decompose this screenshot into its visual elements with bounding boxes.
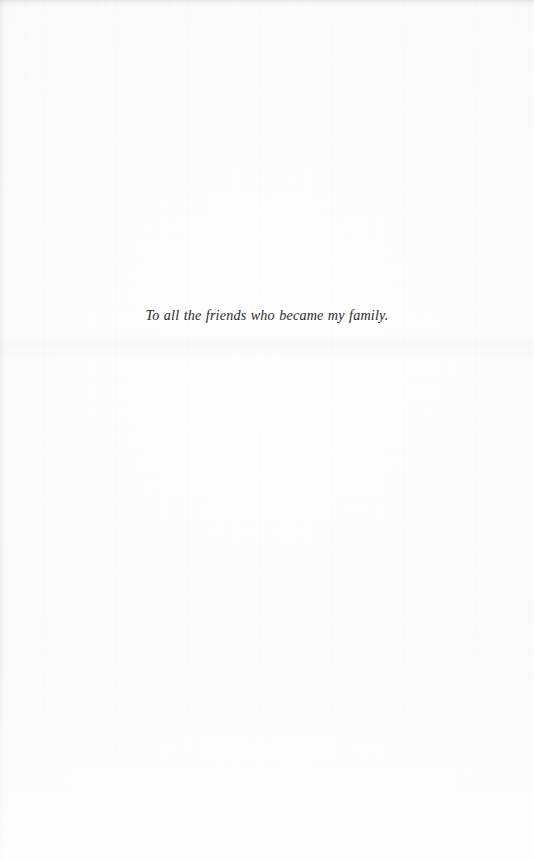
page-left-edge-shadow — [0, 0, 6, 861]
scan-banding-artifact — [0, 332, 534, 358]
book-page: To all the friends who became my family. — [0, 0, 534, 861]
dedication-block: To all the friends who became my family. — [0, 306, 534, 324]
page-top-edge-shadow — [0, 0, 534, 7]
paper-texture-overlay — [0, 0, 534, 861]
scan-bottom-wash — [0, 631, 534, 861]
dedication-text: To all the friends who became my family. — [146, 306, 389, 324]
